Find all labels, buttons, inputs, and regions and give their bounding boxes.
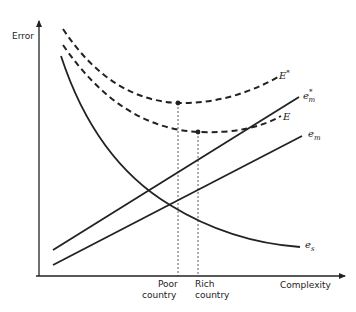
rich-country-label-line1: Rich <box>195 279 214 289</box>
E-star-minimum-point <box>176 101 181 106</box>
error-complexity-diagram: Error Complexity Poor country Rich count… <box>0 0 356 312</box>
x-axis-label: Complexity <box>280 280 332 290</box>
rich-country-label-line2: country <box>195 290 230 300</box>
label-e-s: es <box>305 239 315 253</box>
curve-E <box>63 45 281 132</box>
label-E: E <box>282 111 291 122</box>
label-e-m-star: e*m <box>303 88 315 104</box>
label-E-star: E* <box>278 69 290 81</box>
E-minimum-point <box>196 130 201 135</box>
poor-country-label-line1: Poor <box>158 279 178 289</box>
poor-country-label-line2: country <box>142 290 177 300</box>
line-e-m <box>53 136 302 265</box>
y-axis-label: Error <box>12 31 34 41</box>
curve-E-star <box>63 29 278 103</box>
label-e-m: em <box>308 128 321 142</box>
